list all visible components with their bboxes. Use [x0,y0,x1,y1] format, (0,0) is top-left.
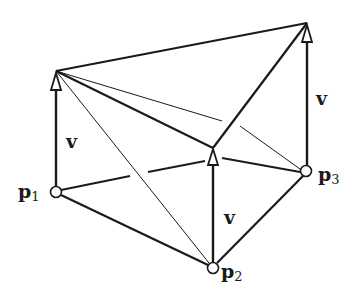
top-edge-a2-a3 [213,23,307,148]
top-edge-a1-a2 [56,71,213,148]
hidden-edge-p1-p3-left [61,176,130,190]
label-p1: p1 [18,180,40,204]
hidden-edge-p1-p3-mid [148,161,205,172]
label-v-right: v [315,87,328,109]
label-p3: p3 [318,163,340,187]
label-v-middle: v [223,206,236,228]
diagonal-a1-p2 [56,71,213,268]
top-edge-a1-a3 [56,23,307,71]
prism-svg: p1 p2 p3 v v v [0,0,359,304]
arrowhead-icon [208,149,218,165]
prism-diagram: p1 p2 p3 v v v [0,0,359,304]
vertex-p2-circle [208,263,219,274]
vertex-p3-circle [301,166,312,177]
label-v-left: v [65,130,78,152]
diagonal-a1-p3-front [56,71,222,121]
vertex-p1-circle [51,187,62,198]
bottom-edge-p1-p2 [61,195,208,265]
label-p2: p2 [221,260,243,284]
